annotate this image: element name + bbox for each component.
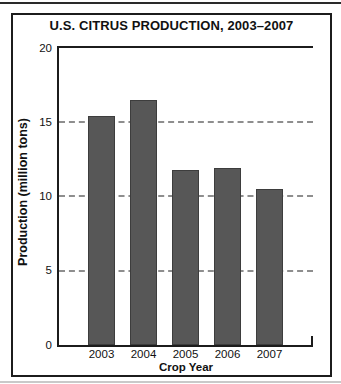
y-tick-15: 15 — [13, 115, 54, 130]
chart-frame: U.S. CITRUS PRODUCTION, 2003–2007 Produc… — [11, 13, 332, 377]
page-top-rule — [0, 2, 341, 4]
bar-2003 — [88, 116, 115, 345]
bar-2006 — [214, 168, 241, 345]
bar-2004 — [130, 100, 157, 345]
bar-2007 — [256, 189, 283, 345]
x-tick-2007: 2007 — [240, 348, 300, 361]
x-axis-end-tick — [311, 336, 313, 345]
y-tick-20: 20 — [13, 41, 54, 56]
y-axis-ticks: 05101520 — [13, 48, 54, 345]
y-tick-10: 10 — [13, 189, 54, 204]
x-axis-title: Crop Year — [57, 361, 315, 374]
y-tick-5: 5 — [13, 263, 54, 278]
plot-area — [57, 46, 313, 347]
citrus-production-figure: U.S. CITRUS PRODUCTION, 2003–2007 Produc… — [0, 0, 341, 384]
chart-title: U.S. CITRUS PRODUCTION, 2003–2007 — [13, 18, 330, 33]
x-axis-ticks: 20032004200520062007 — [13, 348, 330, 361]
page-bottom-rule — [0, 381, 341, 383]
bar-2005 — [172, 170, 199, 345]
